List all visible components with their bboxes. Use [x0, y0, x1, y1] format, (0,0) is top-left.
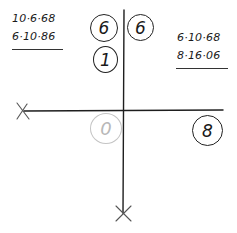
right-date-1: 6·10·68 [177, 31, 220, 44]
circled-number-value: 0 [100, 118, 111, 139]
left-date-2: 6·10·86 [12, 30, 55, 43]
left-dates-underline [12, 49, 63, 50]
left-date-1: 10·6·68 [12, 12, 55, 25]
circled-number-value: 6 [135, 18, 146, 38]
circled-number-value: 1 [100, 50, 111, 70]
circled-number-6-upper-left: 6 [90, 14, 118, 42]
circled-number-value: 6 [99, 18, 110, 38]
circled-number-6-upper-right: 6 [127, 14, 154, 41]
right-date-2: 8·16·06 [177, 49, 220, 62]
circled-number-1-upper-left: 1 [93, 46, 118, 73]
right-dates-underline [176, 68, 228, 69]
circled-number-8-right: 8 [192, 115, 223, 146]
diagram-canvas: 10·6·68 6·10·86 6·10·68 8·16·06 6 1 6 0 … [0, 0, 237, 233]
vertical-axis [123, 10, 124, 213]
circled-number-0-lower-left: 0 [90, 113, 122, 144]
circled-number-value: 8 [202, 121, 213, 141]
